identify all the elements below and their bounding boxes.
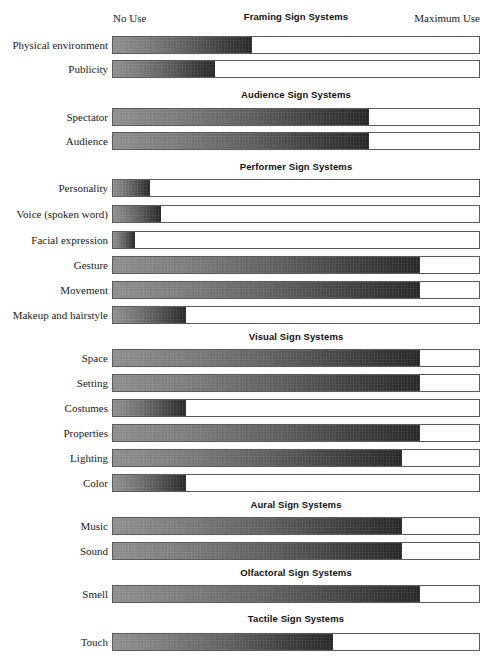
bar-fill [113,450,402,466]
chart-row: Makeup and hairstyle [0,306,496,324]
section-title: Aural Sign Systems [112,499,480,511]
section-title: Tactile Sign Systems [112,613,480,625]
bar-track [112,256,480,274]
section-title: Audience Sign Systems [112,89,480,101]
chart-row: Physical environment [0,36,496,54]
chart-row: Sound [0,542,496,560]
bar-fill [113,425,420,441]
chart-row: Spectator [0,108,496,126]
chart-row: Lighting [0,449,496,467]
chart-row: Space [0,349,496,367]
bar-track [112,374,480,392]
row-label: Sound [0,542,108,560]
row-label: Space [0,349,108,367]
bar-fill [113,400,186,416]
row-label: Makeup and hairstyle [0,306,108,324]
bar-track [112,542,480,560]
sign-systems-chart: No Use Maximum Use Framing Sign SystemsP… [0,0,496,672]
bar-fill [113,206,161,222]
bar-track [112,179,480,197]
bar-track [112,306,480,324]
bar-fill [113,133,369,149]
bar-fill [113,518,402,534]
chart-row: Setting [0,374,496,392]
bar-track [112,585,480,603]
section-title: Olfactoral Sign Systems [112,567,480,579]
section-title: Framing Sign Systems [112,11,480,23]
row-label: Facial expression [0,231,108,249]
bar-track [112,449,480,467]
bar-track [112,205,480,223]
bar-fill [113,109,369,125]
row-label: Publicity [0,60,108,78]
bar-track [112,281,480,299]
row-label: Physical environment [0,36,108,54]
bar-fill [113,257,420,273]
row-label: Music [0,517,108,535]
row-label: Color [0,474,108,492]
bar-fill [113,232,135,248]
bar-track [112,633,480,651]
chart-row: Gesture [0,256,496,274]
chart-row: Publicity [0,60,496,78]
row-label: Lighting [0,449,108,467]
chart-row: Color [0,474,496,492]
bar-track [112,517,480,535]
bar-track [112,132,480,150]
bar-track [112,349,480,367]
bar-fill [113,634,333,650]
chart-row: Audience [0,132,496,150]
bar-fill [113,586,420,602]
bar-track [112,60,480,78]
bar-fill [113,282,420,298]
chart-row: Touch [0,633,496,651]
chart-row: Facial expression [0,231,496,249]
bar-fill [113,375,420,391]
chart-row: Voice (spoken word) [0,205,496,223]
chart-row: Personality [0,179,496,197]
bar-fill [113,543,402,559]
row-label: Smell [0,585,108,603]
bar-fill [113,37,252,53]
bar-track [112,231,480,249]
chart-row: Music [0,517,496,535]
row-label: Spectator [0,108,108,126]
bar-track [112,399,480,417]
row-label: Personality [0,179,108,197]
bar-track [112,424,480,442]
bar-fill [113,475,186,491]
row-label: Setting [0,374,108,392]
bar-track [112,108,480,126]
chart-row: Smell [0,585,496,603]
bar-track [112,474,480,492]
bar-fill [113,180,150,196]
row-label: Gesture [0,256,108,274]
bar-fill [113,61,215,77]
row-label: Audience [0,132,108,150]
row-label: Movement [0,281,108,299]
bar-fill [113,350,420,366]
chart-row: Costumes [0,399,496,417]
bar-track [112,36,480,54]
section-title: Visual Sign Systems [112,331,480,343]
row-label: Properties [0,424,108,442]
chart-row: Properties [0,424,496,442]
row-label: Touch [0,633,108,651]
row-label: Voice (spoken word) [0,205,108,223]
bar-fill [113,307,186,323]
chart-row: Movement [0,281,496,299]
section-title: Performer Sign Systems [112,161,480,173]
row-label: Costumes [0,399,108,417]
